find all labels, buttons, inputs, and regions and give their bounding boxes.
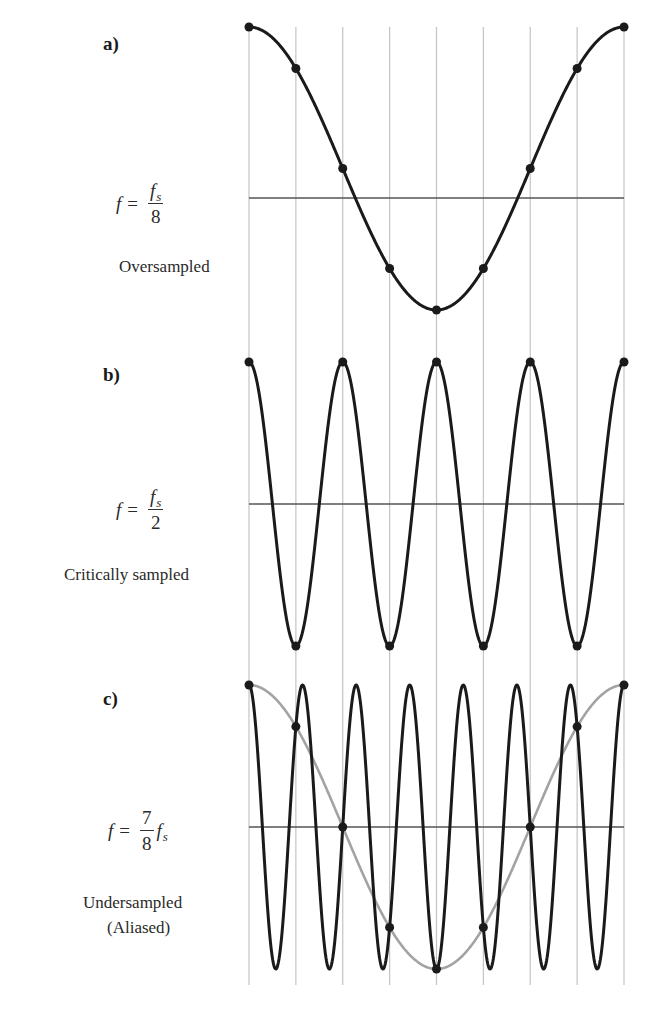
panel-label-b: b): [103, 364, 120, 386]
panel-label-a: a): [103, 33, 119, 55]
formula-c-equals: =: [119, 820, 130, 842]
formula-c-tail: f: [157, 820, 162, 841]
sample-dot: [245, 358, 254, 367]
formula-a-den: 8: [151, 204, 161, 226]
sample-dot: [385, 642, 394, 651]
sample-dot: [620, 358, 629, 367]
formula-b: f = fs 2: [116, 487, 163, 532]
sample-dot: [526, 164, 535, 173]
sample-dot: [432, 965, 441, 974]
formula-a-fraction: fs 8: [148, 181, 163, 226]
formula-a-lhs: f: [116, 193, 121, 215]
sample-dot: [432, 358, 441, 367]
caption-c-line1: Undersampled: [83, 893, 182, 913]
sample-dot: [479, 642, 488, 651]
formula-b-equals: =: [127, 499, 138, 521]
sample-dot: [479, 264, 488, 273]
sample-dot: [526, 358, 535, 367]
formula-b-num: f: [150, 486, 155, 507]
caption-a: Oversampled: [119, 257, 210, 277]
formula-a-equals: =: [127, 193, 138, 215]
sample-dot: [291, 722, 300, 731]
sample-dot: [432, 306, 441, 315]
sample-dot: [479, 923, 488, 932]
sample-dot: [573, 64, 582, 73]
sample-dot: [385, 264, 394, 273]
formula-b-num-sub: s: [156, 495, 161, 510]
sample-dot: [573, 642, 582, 651]
formula-c: f = 7 8 fs: [108, 808, 168, 853]
sample-dot: [338, 164, 347, 173]
formula-b-lhs: f: [116, 499, 121, 521]
formula-a: f = fs 8: [116, 181, 163, 226]
sample-dot: [245, 23, 254, 32]
sample-dot: [291, 642, 300, 651]
sample-dot: [291, 64, 300, 73]
sample-gridlines: [249, 27, 624, 985]
sample-dot: [526, 823, 535, 832]
formula-c-tail-sub: s: [163, 829, 168, 844]
formula-c-num: 7: [140, 808, 154, 831]
formula-c-den: 8: [142, 831, 152, 853]
formula-c-lhs: f: [108, 820, 113, 842]
sampling-diagram: [0, 0, 651, 1011]
sample-dot: [338, 823, 347, 832]
formula-a-num: f: [150, 180, 155, 201]
sample-dot: [573, 722, 582, 731]
sample-dot: [245, 681, 254, 690]
sample-dot: [385, 923, 394, 932]
panel-label-c: c): [103, 688, 118, 710]
formula-b-den: 2: [151, 510, 161, 532]
formula-a-num-sub: s: [156, 189, 161, 204]
caption-b: Critically sampled: [64, 565, 189, 585]
sample-dot: [620, 681, 629, 690]
sample-dot: [338, 358, 347, 367]
formula-b-fraction: fs 2: [148, 487, 163, 532]
caption-c-line2: (Aliased): [107, 918, 170, 938]
formula-c-fraction: 7 8: [140, 808, 154, 853]
sample-dot: [620, 23, 629, 32]
